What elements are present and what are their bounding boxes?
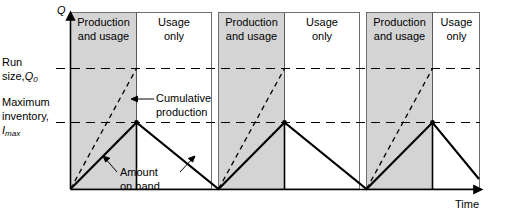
cumulative-production-annotation-line2: production: [156, 106, 207, 119]
x-axis-label: Time: [455, 198, 479, 211]
phase-label-6-line2: only: [433, 30, 480, 43]
max-inventory-subscript: max: [5, 129, 20, 138]
phase-label-1-line2: and usage: [71, 30, 136, 43]
y-axis-label: Q: [57, 4, 66, 17]
phase-label-3-line1: Production: [219, 16, 284, 29]
peak-marker-3: [430, 120, 435, 125]
run-size-label-line2: size,Q0: [2, 70, 38, 84]
phase-label-2-line1: Usage: [137, 16, 211, 29]
cumulative-production-leader: [131, 96, 154, 102]
amount-on-hand-arrowhead-right: [188, 156, 195, 162]
run-size-subscript: 0: [33, 75, 37, 84]
run-size-label-line1: Run: [2, 56, 22, 69]
cumulative-production-annotation-line1: Cumulative: [156, 92, 211, 105]
max-inventory-label-line3: Imax: [2, 124, 20, 138]
phase-label-6-line1: Usage: [433, 16, 480, 29]
phase-label-1-line1: Production: [71, 16, 136, 29]
run-size-symbol: Q: [25, 70, 34, 82]
amount-on-hand-annotation-line1: Amount: [120, 166, 158, 179]
peak-marker-1: [134, 120, 139, 125]
peak-marker-2: [282, 120, 287, 125]
phase-label-5-line1: Production: [367, 16, 432, 29]
phase-label-3-line2: and usage: [219, 30, 284, 43]
phase-label-5-line2: and usage: [367, 30, 432, 43]
phase-label-4-line2: only: [285, 30, 359, 43]
max-inventory-label-line2: inventory,: [2, 110, 49, 123]
max-inventory-label-line1: Maximum: [2, 96, 50, 109]
phase-label-4-line1: Usage: [285, 16, 359, 29]
run-size-label-text: size,: [2, 70, 25, 82]
figure-root: Q Time Run size,Q0 Maximum inventory, Im…: [0, 0, 508, 224]
phase-label-2-line2: only: [137, 30, 211, 43]
amount-on-hand-annotation-line2: on hand: [120, 180, 160, 193]
